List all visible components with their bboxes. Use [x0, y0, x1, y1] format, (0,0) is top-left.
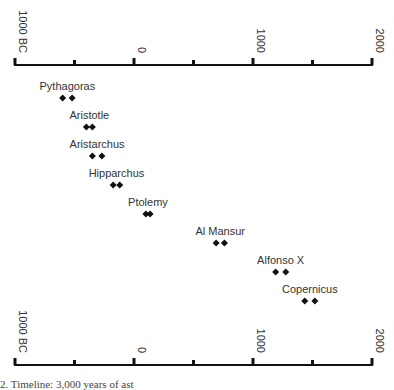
astronomer-label: Al Mansur	[196, 225, 246, 237]
diamond-marker-icon	[213, 240, 220, 247]
tick-label: 1000	[255, 329, 267, 353]
timeline-chart: 1000 BC010002000 PythagorasAristotleAris…	[0, 0, 394, 390]
axis-tick	[371, 358, 374, 365]
diamond-marker-icon	[311, 298, 318, 305]
diamond-marker-icon	[221, 240, 228, 247]
diamond-marker-icon	[98, 153, 105, 160]
axis-tick	[73, 360, 76, 365]
diamond-marker-icon	[272, 269, 279, 276]
diamond-marker-icon	[89, 124, 96, 131]
axis-tick	[14, 58, 17, 65]
astronomer-row: Copernicus	[282, 283, 338, 305]
astronomer-label: Hipparchus	[89, 167, 145, 179]
axis-tick	[311, 60, 314, 65]
astronomer-row: Ptolemy	[128, 196, 168, 218]
diamond-marker-icon	[69, 95, 76, 102]
tick-label: 0	[136, 47, 148, 53]
diamond-marker-icon	[110, 182, 117, 189]
axis-tick	[252, 358, 255, 365]
diamond-marker-icon	[59, 95, 66, 102]
diamond-marker-icon	[116, 182, 123, 189]
tick-label: 0	[136, 347, 148, 353]
astronomer-label: Ptolemy	[128, 196, 168, 208]
axis-tick	[73, 60, 76, 65]
axis-tick	[252, 58, 255, 65]
tick-label: 1000 BC	[17, 10, 29, 53]
tick-label: 2000	[374, 29, 386, 53]
diamond-marker-icon	[89, 153, 96, 160]
astronomer-row: Aristarchus	[70, 138, 126, 160]
axis-tick	[192, 60, 195, 65]
astronomer-points: PythagorasAristotleAristarchusHipparchus…	[40, 80, 339, 305]
astronomer-row: Pythagoras	[40, 80, 96, 102]
axis-tick	[14, 358, 17, 365]
tick-label: 1000 BC	[17, 310, 29, 353]
astronomer-label: Aristarchus	[70, 138, 126, 150]
diamond-marker-icon	[282, 269, 289, 276]
astronomer-row: Hipparchus	[89, 167, 145, 189]
bottom-axis: 1000 BC010002000	[14, 310, 387, 365]
diamond-marker-icon	[147, 211, 154, 218]
tick-label: 2000	[374, 329, 386, 353]
diamond-marker-icon	[301, 298, 308, 305]
axis-tick	[192, 360, 195, 365]
astronomer-row: Aristotle	[70, 109, 110, 131]
astronomer-label: Pythagoras	[40, 80, 96, 92]
astronomer-label: Copernicus	[282, 283, 338, 295]
tick-label: 1000	[255, 29, 267, 53]
astronomer-row: Al Mansur	[196, 225, 246, 247]
astronomer-label: Aristotle	[70, 109, 110, 121]
axis-tick	[133, 58, 136, 65]
axis-tick	[371, 58, 374, 65]
astronomer-row: Alfonso X	[257, 254, 305, 276]
axis-tick	[311, 360, 314, 365]
axis-tick	[133, 358, 136, 365]
top-axis: 1000 BC010002000	[14, 10, 387, 65]
astronomer-label: Alfonso X	[257, 254, 305, 266]
figure-caption: 2. Timeline: 3,000 years of ast	[0, 378, 134, 390]
